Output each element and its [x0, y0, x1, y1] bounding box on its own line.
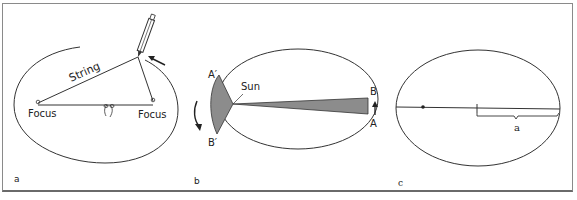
knot-icon — [104, 105, 114, 118]
semi-major-label: a — [514, 122, 520, 133]
panel-b-label: b — [194, 176, 200, 186]
sun-label: Sun — [241, 81, 260, 92]
a-label: A — [370, 118, 377, 129]
a-prime-label: A′ — [208, 69, 218, 80]
panel-b: Sun A′ B′ B A b — [194, 49, 378, 186]
semi-major-brace — [477, 113, 559, 119]
major-axis — [396, 107, 560, 109]
focus-label-left: Focus — [28, 108, 57, 119]
panel-a: String Focus Focus a — [14, 14, 178, 184]
panel-c: a c — [396, 50, 560, 188]
b-label: B — [370, 86, 377, 97]
focus-point — [421, 105, 425, 109]
swept-area-aphelion — [233, 98, 368, 114]
panel-a-label: a — [14, 174, 20, 184]
b-prime-label: B′ — [208, 137, 218, 148]
pencil-icon — [135, 14, 156, 58]
panel-c-label: c — [398, 178, 403, 188]
figure-canvas: String Focus Focus a Sun A′ B′ B A b a c — [0, 0, 577, 200]
sun-pointer — [233, 94, 243, 104]
arrow-down-icon — [195, 101, 202, 131]
string-label: String — [67, 60, 102, 85]
focus-label-right: Focus — [138, 109, 167, 120]
